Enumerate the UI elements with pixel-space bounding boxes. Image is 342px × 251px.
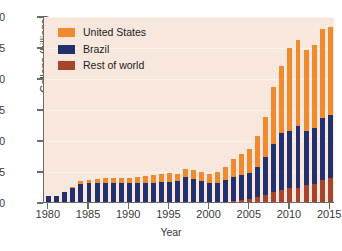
- bar-segment: [127, 183, 132, 202]
- bar-segment: [320, 29, 325, 118]
- bar-segment: [207, 183, 212, 202]
- bar-stack: [223, 17, 228, 202]
- legend-swatch-icon: [58, 28, 75, 37]
- bar-segment: [191, 170, 196, 179]
- bar-segment: [135, 183, 140, 202]
- bar-segment: [328, 27, 333, 116]
- y-axis-tick-label: 20: [0, 73, 5, 85]
- bar-stack: [207, 17, 212, 202]
- bar-stack: [304, 17, 309, 202]
- bar-segment: [199, 172, 204, 181]
- bar-segment: [183, 169, 188, 177]
- legend-label: Brazil: [83, 44, 109, 55]
- x-axis-tick-label: 1985: [76, 208, 100, 220]
- bar-segment: [271, 87, 276, 144]
- bar-stack: [247, 17, 252, 202]
- bar-segment: [304, 50, 309, 132]
- bar-segment: [143, 176, 148, 183]
- bar-segment: [279, 190, 284, 202]
- bar-stack: [159, 17, 164, 202]
- bar-stack: [312, 17, 317, 202]
- bar-segment: [263, 195, 268, 202]
- bar-segment: [207, 174, 212, 184]
- bar-segment: [263, 157, 268, 195]
- x-axis-tick-label: 2015: [317, 208, 341, 220]
- bar-segment: [111, 183, 116, 202]
- bar-segment: [215, 183, 220, 202]
- bar-stack: [231, 17, 236, 202]
- bar-stack: [263, 17, 268, 202]
- bar-segment: [287, 48, 292, 130]
- bar-segment: [279, 133, 284, 191]
- x-axis-tick-mark: [248, 203, 249, 209]
- bar-segment: [255, 167, 260, 197]
- x-axis-tick-mark: [87, 203, 88, 209]
- x-axis-tick-mark: [47, 203, 48, 209]
- bar-segment: [167, 173, 172, 182]
- bar-segment: [287, 188, 292, 202]
- bar-stack: [215, 17, 220, 202]
- x-axis-tick-label: 1990: [116, 208, 140, 220]
- bar-stack: [320, 17, 325, 202]
- bar-stack: [191, 17, 196, 202]
- bar-stack: [199, 17, 204, 202]
- bar-segment: [328, 178, 333, 202]
- x-axis-tick-mark: [128, 203, 129, 209]
- bar-stack: [279, 17, 284, 202]
- bar-segment: [175, 181, 180, 202]
- x-axis-tick-mark: [288, 203, 289, 209]
- bar-segment: [46, 196, 51, 202]
- x-axis-tick-label: 2000: [196, 208, 220, 220]
- x-axis-tick-label: 1980: [36, 208, 60, 220]
- chart-container: Gallons (billions) 051015202530 19801985…: [0, 0, 342, 251]
- bar-segment: [296, 126, 301, 188]
- bar-segment: [167, 182, 172, 202]
- bar-segment: [159, 182, 164, 202]
- bar-segment: [151, 183, 156, 202]
- bar-segment: [223, 167, 228, 180]
- legend-label: Rest of world: [83, 60, 144, 71]
- bar-segment: [215, 172, 220, 183]
- bar-stack: [239, 17, 244, 202]
- legend-item: Rest of world: [58, 59, 146, 72]
- legend-item: United States: [58, 26, 146, 39]
- bar-segment: [320, 180, 325, 202]
- bar-segment: [247, 173, 252, 199]
- y-axis-tick-label: 0: [0, 197, 5, 209]
- bar-segment: [239, 154, 244, 175]
- bar-segment: [143, 183, 148, 202]
- bar-segment: [70, 188, 75, 202]
- bar-stack: [167, 17, 172, 202]
- bar-segment: [312, 128, 317, 184]
- bar-segment: [304, 185, 309, 202]
- bar-stack: [328, 17, 333, 202]
- bar-segment: [247, 149, 252, 173]
- bar-segment: [263, 117, 268, 157]
- bar-segment: [239, 200, 244, 202]
- bar-stack: [271, 17, 276, 202]
- bar-segment: [191, 179, 196, 202]
- x-axis-tick-mark: [208, 203, 209, 209]
- bar-segment: [296, 188, 301, 202]
- bar-segment: [151, 175, 156, 182]
- x-axis-tick-mark: [168, 203, 169, 209]
- bar-segment: [279, 66, 284, 133]
- bar-segment: [255, 197, 260, 202]
- y-axis-tick-label: 5: [0, 166, 5, 178]
- bar-segment: [247, 199, 252, 202]
- bar-stack: [183, 17, 188, 202]
- bar-segment: [312, 45, 317, 127]
- bar-segment: [183, 177, 188, 202]
- legend-item: Brazil: [58, 43, 146, 56]
- bar-segment: [271, 192, 276, 202]
- chart-legend: United StatesBrazilRest of world: [58, 26, 146, 76]
- bar-segment: [54, 196, 59, 202]
- x-axis-tick-mark: [329, 203, 330, 209]
- legend-label: United States: [83, 27, 146, 38]
- bar-segment: [304, 131, 309, 185]
- bar-segment: [119, 183, 124, 202]
- x-axis-title: Year: [0, 226, 342, 238]
- bar-segment: [87, 183, 92, 202]
- x-axis-tick-label: 2005: [237, 208, 261, 220]
- x-axis-tick-label: 2010: [277, 208, 301, 220]
